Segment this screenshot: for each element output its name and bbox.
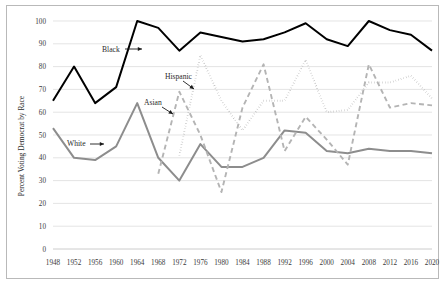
x-tick-1976: 1976 xyxy=(193,259,208,267)
x-tick-1988: 1988 xyxy=(256,259,271,267)
x-tick-2012: 2012 xyxy=(383,259,398,267)
series-annotations-group: BlackHispanicAsianWhite xyxy=(67,45,194,148)
x-tick-1996: 1996 xyxy=(298,259,313,267)
line-chart-plot: 0102030405060708090100 19481952195619601… xyxy=(7,6,440,280)
gridlines-group xyxy=(53,21,432,249)
y-axis-tick-labels: 0102030405060708090100 xyxy=(35,18,46,254)
x-tick-1992: 1992 xyxy=(277,259,292,267)
annotation-arrow-head-hispanic xyxy=(189,85,194,89)
y-tick-50: 50 xyxy=(39,132,47,140)
y-axis-title: Percent Voting Democrat by Race xyxy=(17,95,26,196)
x-tick-1952: 1952 xyxy=(67,259,82,267)
x-axis-tick-labels: 1948195219561960196419681972197619801984… xyxy=(46,259,440,267)
y-tick-60: 60 xyxy=(39,109,47,117)
x-tick-2020: 2020 xyxy=(425,259,440,267)
x-tick-1972: 1972 xyxy=(172,259,187,267)
x-tick-1948: 1948 xyxy=(46,259,61,267)
annotation-label-black: Black xyxy=(102,45,120,54)
x-tick-2000: 2000 xyxy=(320,259,335,267)
annotation-label-hispanic: Hispanic xyxy=(165,72,193,81)
series-line-white xyxy=(53,103,432,181)
y-tick-90: 90 xyxy=(39,40,47,48)
y-tick-100: 100 xyxy=(35,18,46,26)
y-tick-10: 10 xyxy=(39,223,47,231)
chart-frame: 0102030405060708090100 19481952195619601… xyxy=(6,5,439,279)
annotation-arrow-head-white xyxy=(100,142,104,146)
figure-container: 0102030405060708090100 19481952195619601… xyxy=(0,0,445,284)
x-tick-1964: 1964 xyxy=(130,259,145,267)
annotation-arrow-head-black xyxy=(138,47,142,51)
y-tick-0: 0 xyxy=(42,246,46,254)
series-line-black xyxy=(53,21,432,103)
y-tick-70: 70 xyxy=(39,86,47,94)
y-tick-20: 20 xyxy=(39,200,47,208)
x-tick-1960: 1960 xyxy=(109,259,124,267)
x-tick-2008: 2008 xyxy=(362,259,377,267)
y-tick-80: 80 xyxy=(39,63,47,71)
x-tick-2004: 2004 xyxy=(341,259,356,267)
x-tick-1956: 1956 xyxy=(88,259,103,267)
x-tick-1968: 1968 xyxy=(151,259,166,267)
x-tick-2016: 2016 xyxy=(404,259,419,267)
y-tick-40: 40 xyxy=(39,154,47,162)
x-tick-1984: 1984 xyxy=(235,259,250,267)
annotation-label-asian: Asian xyxy=(144,98,162,107)
series-line-hispanic xyxy=(179,55,432,155)
y-tick-30: 30 xyxy=(39,177,47,185)
series-line-asian xyxy=(158,64,432,192)
annotation-label-white: White xyxy=(67,139,86,148)
x-tick-1980: 1980 xyxy=(214,259,229,267)
